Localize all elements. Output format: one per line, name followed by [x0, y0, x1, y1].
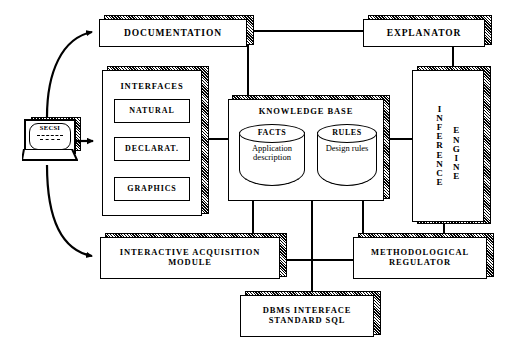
interfaces-item-graphics[interactable]: GRAPHICS — [114, 177, 190, 201]
node-explanator[interactable]: EXPLANATOR — [363, 19, 485, 47]
interfaces-item-declarat-label: DECLARAT. — [125, 145, 179, 154]
arrow-to-documentation — [47, 32, 92, 117]
secsi-device[interactable]: SECSI — [24, 117, 80, 165]
interfaces-item-natural-label: NATURAL — [129, 107, 174, 116]
node-interactive-acquisition-module[interactable]: INTERACTIVE ACQUISITION MODULE — [100, 237, 280, 279]
knowledge-base-label: KNOWLEDGE BASE — [259, 107, 354, 117]
interfaces-item-declarat[interactable]: DECLARAT. — [114, 137, 190, 161]
connector-kb-dbms — [311, 193, 313, 292]
interfaces-item-graphics-label: GRAPHICS — [127, 185, 176, 194]
knowledge-store-rules[interactable]: RULES Design rules — [317, 124, 377, 186]
screen-line-1 — [37, 135, 63, 136]
interfaces-label: INTERFACES — [120, 82, 183, 92]
screen-line-2 — [40, 139, 60, 140]
knowledge-store-facts[interactable]: FACTS Application description — [239, 124, 305, 186]
interactive-acquisition-line2: MODULE — [120, 258, 260, 268]
documentation-label: DOCUMENTATION — [124, 28, 222, 39]
secsi-label: SECSI — [40, 125, 60, 132]
laptop-base — [22, 149, 78, 165]
facts-body-label: Application description — [239, 144, 305, 183]
node-inference-engine[interactable]: INFERENCE ENGINE — [412, 70, 484, 222]
node-methodological-regulator[interactable]: METHODOLOGICAL REGULATOR — [353, 237, 487, 279]
connector-documentation-explanator — [248, 30, 368, 32]
methodological-regulator-line2: REGULATOR — [371, 258, 469, 268]
facts-cap-label: FACTS — [239, 126, 305, 139]
rules-body-label: Design rules — [317, 144, 377, 183]
laptop-screen: SECSI — [29, 123, 71, 150]
diagram-canvas: DOCUMENTATION EXPLANATOR INTERFACES NATU… — [0, 0, 505, 344]
arrow-to-acquisition-module — [47, 165, 92, 256]
node-documentation[interactable]: DOCUMENTATION — [99, 19, 247, 47]
rules-cap-label: RULES — [317, 126, 377, 139]
interfaces-item-natural[interactable]: NATURAL — [114, 99, 190, 123]
inference-engine-col1: INFERENCE — [436, 105, 443, 188]
node-dbms-interface[interactable]: DBMS INTERFACE STANDARD SQL — [240, 295, 374, 337]
dbms-line2: STANDARD SQL — [263, 316, 352, 326]
connector-acquisition-regulator — [284, 259, 358, 261]
explanator-label: EXPLANATOR — [387, 28, 462, 39]
inference-engine-col2: ENGINE — [453, 126, 460, 181]
